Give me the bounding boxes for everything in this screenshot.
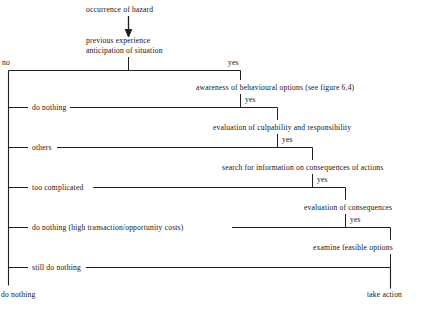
stage-examine-feasible-options: examine feasible options: [313, 243, 393, 253]
branch-label-yes-top: yes: [228, 58, 239, 68]
terminal-do-nothing: do nothing: [1, 290, 36, 300]
branch-label-no: no: [2, 58, 10, 68]
top-arrow-icon: [125, 16, 131, 37]
stage-evaluation-of-consequences: evaluation of consequences: [304, 203, 392, 213]
outcome-do-nothing: do nothing: [32, 103, 67, 113]
decision-tree-diagram: occurrence of hazard previous experience…: [0, 0, 433, 310]
node-previous-experience: previous experience: [86, 36, 150, 46]
outcome-too-complicated: too complicated: [32, 183, 83, 193]
outcome-still-do-nothing: still do nothing: [32, 263, 81, 273]
outcome-do-nothing-high-costs: do nothing (high transaction/opportunity…: [32, 223, 183, 233]
terminal-take-action: take action: [367, 290, 402, 300]
yes-label-4: yes: [350, 215, 361, 225]
stage-awareness-of-behavioural-options: awareness of behavioural options (see fi…: [196, 83, 354, 93]
node-occurrence-of-hazard: occurrence of hazard: [86, 5, 153, 15]
yes-label-1: yes: [245, 95, 256, 105]
yes-label-3: yes: [317, 175, 328, 185]
outcome-others: others: [32, 143, 52, 153]
stage-search-for-information: search for information on consequences o…: [222, 163, 384, 173]
stage-evaluation-of-culpability: evaluation of culpability and responsibi…: [213, 123, 351, 133]
node-anticipation-of-situation: anticipation of situation: [86, 46, 163, 56]
yes-label-2: yes: [282, 135, 293, 145]
